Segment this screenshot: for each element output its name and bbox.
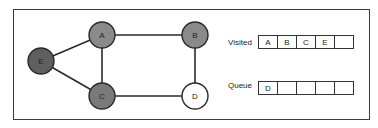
- svg-text:C: C: [99, 92, 105, 101]
- visited-cell: C: [296, 35, 316, 49]
- visited-label: Visited: [228, 38, 252, 47]
- visited-cell: [334, 35, 354, 49]
- node-C: C: [89, 83, 115, 109]
- graph-edges: [41, 35, 195, 96]
- visited-cells: A B C E: [258, 35, 354, 49]
- node-E: E: [28, 48, 54, 74]
- node-A: A: [89, 22, 115, 48]
- visited-cell: B: [277, 35, 297, 49]
- queue-cell: [296, 81, 316, 95]
- node-B: B: [182, 22, 208, 48]
- queue-cell: [315, 81, 335, 95]
- node-D: D: [182, 83, 208, 109]
- queue-label: Queue: [228, 81, 252, 90]
- queue-cell: D: [258, 81, 278, 95]
- visited-cell: A: [258, 35, 278, 49]
- svg-text:D: D: [192, 92, 198, 101]
- svg-text:B: B: [192, 31, 197, 40]
- visited-cell: E: [315, 35, 335, 49]
- svg-text:A: A: [99, 31, 105, 40]
- queue-cell: [334, 81, 354, 95]
- graph: EABCD: [0, 0, 378, 128]
- queue-cell: [277, 81, 297, 95]
- svg-text:E: E: [38, 57, 43, 66]
- queue-cells: D: [258, 81, 354, 95]
